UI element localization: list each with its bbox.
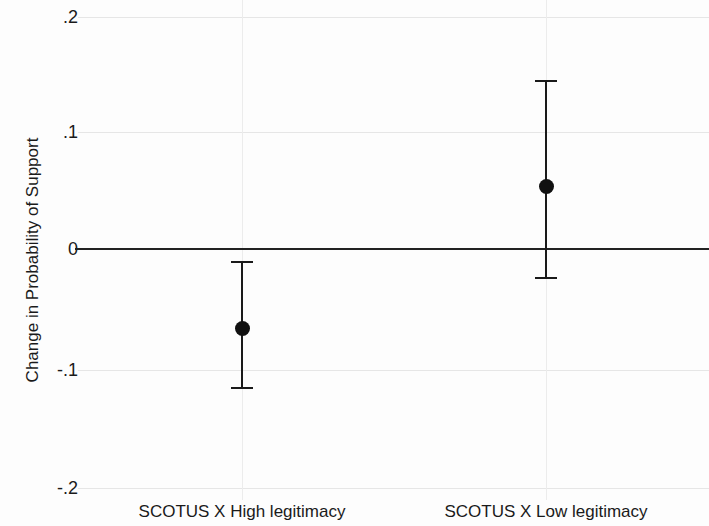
y-tick-label: -.1 xyxy=(18,359,78,381)
gridline-horizontal xyxy=(78,488,709,489)
x-tick-label-high-legitimacy: SCOTUS X High legitimacy xyxy=(139,500,346,524)
y-tick-label: .1 xyxy=(18,121,78,143)
y-tick-label: -.2 xyxy=(18,477,78,499)
gridline-horizontal xyxy=(78,17,709,18)
data-point-marker xyxy=(539,179,554,194)
zero-reference-line xyxy=(75,248,709,250)
x-tick-label-low-legitimacy: SCOTUS X Low legitimacy xyxy=(444,500,647,524)
gridline-horizontal xyxy=(78,132,709,133)
errorbar-cap-upper xyxy=(535,80,557,82)
gridline-horizontal xyxy=(78,370,709,371)
y-tick-label: .2 xyxy=(18,6,78,28)
errorbar-cap-lower xyxy=(231,387,253,389)
y-axis-tick-labels: .2 .1 0 -.1 -.2 xyxy=(12,0,78,526)
plot-area: SCOTUS X High legitimacy SCOTUS X Low le… xyxy=(78,0,709,526)
data-point-marker xyxy=(235,321,250,336)
errorbar-cap-upper xyxy=(231,261,253,263)
y-tick-label: 0 xyxy=(18,238,78,260)
gridline-vertical xyxy=(242,0,243,500)
chart-figure: Change in Probability of Support .2 .1 0… xyxy=(0,0,709,526)
errorbar-cap-lower xyxy=(535,277,557,279)
